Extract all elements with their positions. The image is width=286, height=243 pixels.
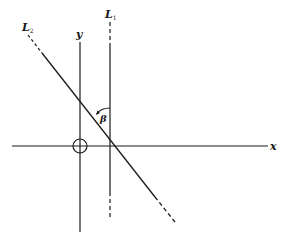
line-L1-label: L1 bbox=[104, 8, 117, 21]
angle-beta-label: β bbox=[99, 113, 107, 124]
line-L2-label: L2 bbox=[21, 21, 34, 34]
line-L2: L2 bbox=[21, 21, 175, 222]
diagram-canvas: x y L1 L2 β bbox=[0, 0, 286, 243]
angle-beta: β bbox=[96, 108, 110, 124]
y-axis: y bbox=[75, 28, 84, 232]
x-axis: x bbox=[12, 140, 277, 153]
x-axis-label: x bbox=[269, 140, 277, 153]
y-axis-label: y bbox=[75, 28, 84, 41]
